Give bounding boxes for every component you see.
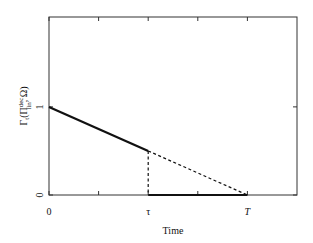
y-tick-label: 1 — [34, 104, 45, 109]
plot-border — [49, 17, 297, 195]
data-series — [49, 107, 247, 195]
x-axis-label: Time — [163, 225, 184, 236]
axis-ticks — [49, 17, 297, 195]
tick-labels: 0τT01 — [34, 104, 252, 217]
series-before-tau — [49, 107, 148, 151]
x-tick-label: 0 — [47, 206, 52, 217]
x-tick-label: τ — [146, 206, 150, 217]
y-tick-label: 0 — [34, 193, 45, 198]
plot-frame — [49, 17, 297, 195]
chart: 0τT01 Time Γt(Πdeclin, Ω) — [0, 0, 313, 243]
svg-text:Γt(Πdeclin, Ω): Γt(Πdeclin, Ω) — [17, 86, 33, 125]
series-extrapolated — [148, 151, 247, 195]
y-axis-label: Γt(Πdeclin, Ω) — [17, 86, 33, 125]
x-tick-label: T — [245, 206, 252, 217]
